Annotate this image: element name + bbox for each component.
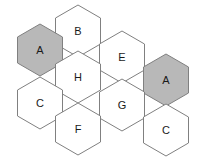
hexagon-shape[interactable] [100,31,145,83]
hexagon-shape[interactable] [100,79,145,131]
hexagon-cell[interactable]: G [100,79,145,131]
hexagon-cell[interactable]: E [100,31,145,83]
hexagon-cell[interactable]: C [144,104,189,156]
hexagon-grid-figure: BAEHACGFC [0,0,206,161]
hexagon-cell[interactable]: A [144,54,189,106]
hexagon-grid-canvas: BAEHACGFC [0,0,206,161]
hexagon-shape-shaded[interactable] [144,54,189,106]
hexagon-cells-group: BAEHACGFC [18,5,189,156]
hexagon-shape[interactable] [144,104,189,156]
